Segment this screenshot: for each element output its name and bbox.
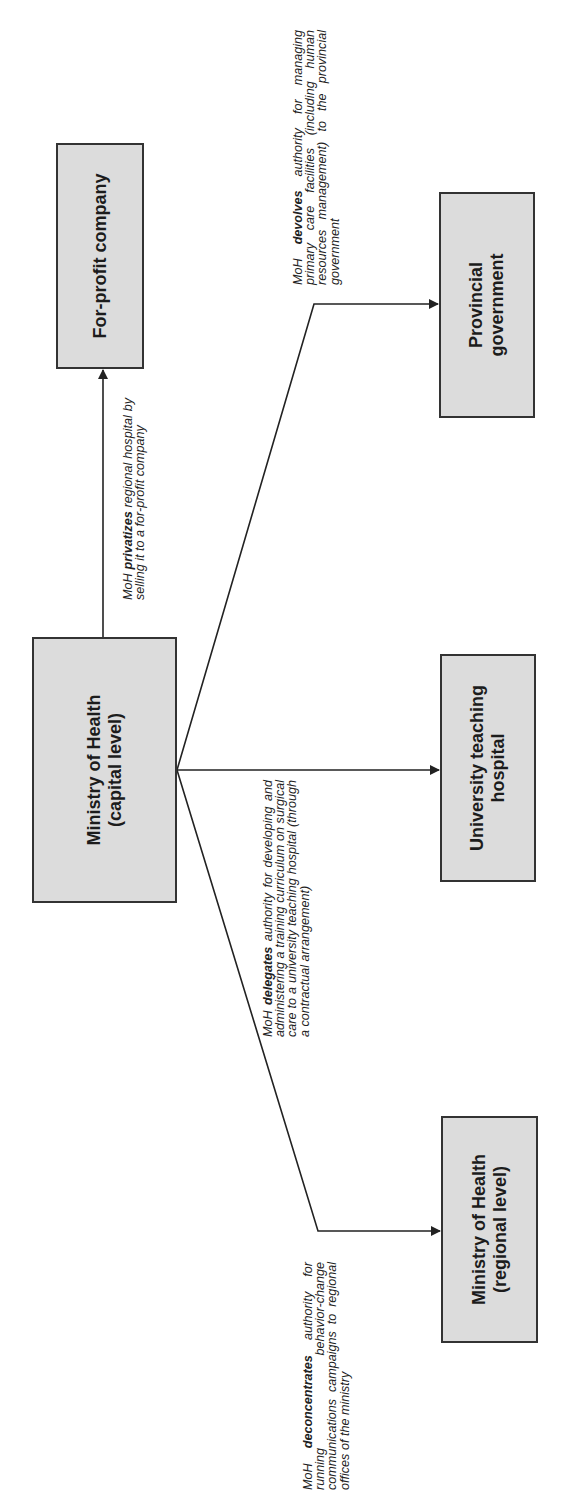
note-privatizes: MoH privatizes regional hospital by sell… [122,398,146,600]
node-capital-line2: (capital level) [105,695,126,846]
node-university-line1: University teaching [467,685,488,851]
note-delegates: MoH delegates authority for developing a… [262,780,311,1037]
node-provincial-line1: Provincial [466,253,487,356]
node-for-profit-company: For-profit company [56,143,144,369]
node-capital-line1: Ministry of Health [84,695,105,846]
node-regional-ministry: Ministry of Health (regional level) [441,1116,538,1343]
node-regional-line1: Ministry of Health [469,1154,490,1305]
node-university-line2: hospital [488,685,509,851]
node-provincial-line2: government [487,253,508,356]
note-devolves: MoH devolves authority for managing prim… [292,30,341,285]
diagram-canvas: Ministry of Health (capital level) For-p… [0,0,561,1501]
node-provincial-government: Provincial government [439,192,535,418]
node-university-teaching-hospital: University teaching hospital [440,654,536,882]
node-for-profit-label: For-profit company [90,174,111,339]
node-capital-ministry: Ministry of Health (capital level) [32,637,177,903]
note-deconcentrates: MoH deconcentrates authority for running… [302,1262,351,1490]
edge-devolves [177,304,438,770]
node-regional-line2: (regional level) [490,1154,511,1305]
